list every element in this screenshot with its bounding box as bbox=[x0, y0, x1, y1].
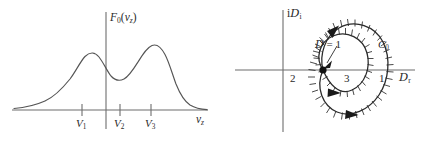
real-axis-label-main: D bbox=[399, 70, 408, 84]
velocity-distribution-plot: F0(vz) vz V1 V2 V3 bbox=[0, 0, 215, 141]
figure-root: F0(vz) vz V1 V2 V3 bbox=[0, 0, 430, 141]
y-axis-label-F: F bbox=[110, 11, 117, 23]
tick-label-v3-main: V bbox=[145, 117, 152, 129]
tick-label-v1-sub: 1 bbox=[83, 123, 87, 131]
imag-axis-label-sub: i bbox=[299, 12, 301, 21]
arrow-outer-top bbox=[327, 26, 339, 39]
nyquist-contour-plot: iDi Dr D = 1 C0 2 3 1 bbox=[215, 0, 430, 141]
pole-annotation-label: D = 1 bbox=[315, 39, 341, 50]
contour-label-c0-sub: 0 bbox=[385, 44, 389, 52]
tick-label-v2: V2 bbox=[114, 118, 124, 131]
x-axis-label: vz bbox=[196, 114, 204, 127]
tick-label-v2-main: V bbox=[114, 117, 121, 129]
contour-svg bbox=[215, 0, 430, 141]
x-axis-label-sub: z bbox=[201, 118, 204, 127]
real-axis-label-sub: r bbox=[408, 76, 411, 85]
tick-label-v2-sub: 2 bbox=[121, 123, 125, 131]
tick-label-v1-main: V bbox=[76, 117, 83, 129]
real-axis-label: Dr bbox=[399, 72, 411, 84]
distribution-svg bbox=[0, 0, 215, 141]
crossing-number-3: 3 bbox=[344, 73, 350, 84]
tick-label-v3: V3 bbox=[145, 118, 155, 131]
tick-label-v3-sub: 3 bbox=[152, 123, 156, 131]
tick-label-v1: V1 bbox=[76, 118, 86, 131]
pole-annotation-D: D bbox=[315, 38, 324, 51]
crossing-number-1: 1 bbox=[379, 73, 385, 84]
arrow-outer-bottom bbox=[345, 110, 359, 119]
y-axis-label-paren-close: ) bbox=[133, 11, 137, 23]
crossing-number-2: 2 bbox=[290, 73, 296, 84]
pole-annotation-eq: = 1 bbox=[324, 38, 341, 50]
imag-axis-label: iDi bbox=[287, 8, 302, 20]
contour-label-c0: C0 bbox=[378, 39, 389, 52]
distribution-curve bbox=[14, 45, 207, 110]
y-axis-label: F0(vz) bbox=[110, 12, 137, 25]
